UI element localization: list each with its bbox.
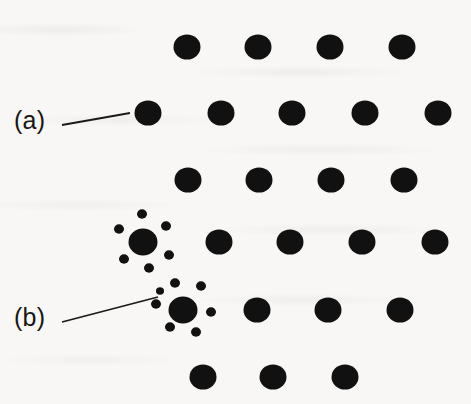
cluster-b bbox=[151, 278, 216, 336]
lattice-dot bbox=[190, 364, 217, 389]
cluster-satellite-dot bbox=[165, 322, 175, 331]
cluster-satellite-dot bbox=[156, 287, 164, 294]
lattice-dot-group bbox=[135, 34, 452, 389]
lattice-dot bbox=[277, 229, 304, 254]
cluster-satellite-dot bbox=[144, 263, 154, 272]
lattice-dot bbox=[422, 229, 449, 254]
cluster-satellite-dot bbox=[119, 254, 129, 263]
lattice-dot bbox=[135, 100, 162, 125]
lattice-dot bbox=[349, 229, 376, 254]
lattice-dot bbox=[389, 34, 416, 59]
lattice-dot bbox=[260, 364, 287, 389]
lattice-dot bbox=[425, 100, 452, 125]
lattice-dot bbox=[206, 229, 233, 254]
lattice-dot bbox=[246, 167, 273, 192]
cluster-satellite-dot bbox=[196, 281, 206, 290]
lattice-dot bbox=[332, 364, 359, 389]
lattice-dot bbox=[391, 167, 418, 192]
lattice-dot bbox=[387, 297, 414, 322]
cluster-satellite-dot bbox=[206, 307, 216, 316]
annotation-label-a: (a) bbox=[14, 108, 45, 133]
leader-line-a bbox=[62, 113, 130, 125]
lattice-dot bbox=[315, 297, 342, 322]
figure-root: (a) (b) bbox=[0, 0, 471, 404]
lattice-dot bbox=[208, 100, 235, 125]
lattice-dot bbox=[245, 34, 272, 59]
cluster-satellite-dot bbox=[164, 250, 174, 259]
cluster-center-dot bbox=[129, 229, 158, 256]
cluster-a bbox=[114, 209, 174, 272]
annotation-label-b: (b) bbox=[14, 305, 45, 330]
cluster-group bbox=[114, 209, 216, 336]
lattice-diagram bbox=[0, 0, 471, 404]
lattice-dot bbox=[318, 167, 345, 192]
cluster-satellite-dot bbox=[191, 327, 201, 336]
cluster-center-dot bbox=[169, 297, 198, 324]
lattice-dot bbox=[279, 100, 306, 125]
cluster-satellite-dot bbox=[170, 278, 180, 287]
lattice-dot bbox=[244, 297, 271, 322]
lattice-dot bbox=[174, 34, 201, 59]
cluster-satellite-dot bbox=[114, 224, 124, 233]
lattice-dot bbox=[317, 34, 344, 59]
cluster-satellite-dot bbox=[137, 209, 147, 218]
cluster-satellite-dot bbox=[161, 221, 171, 230]
lattice-dot bbox=[175, 167, 202, 192]
lattice-dot bbox=[352, 100, 379, 125]
cluster-satellite-dot bbox=[151, 299, 161, 308]
leader-line-b bbox=[62, 297, 158, 322]
